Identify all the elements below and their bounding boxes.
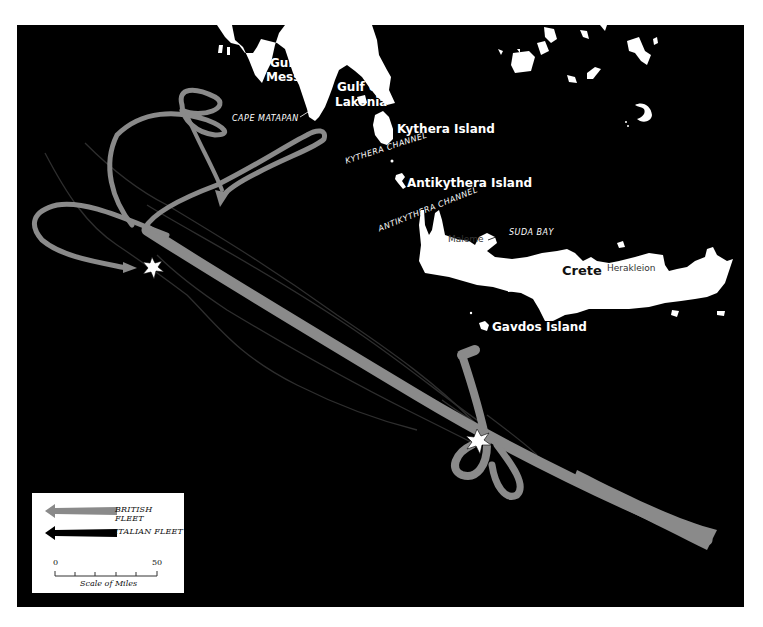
british-fleet-wide-tail	[572, 470, 717, 550]
land-kythera	[373, 111, 393, 145]
label-maleme: Maleme	[448, 234, 484, 244]
label-herakleion: Herakleion	[607, 263, 655, 273]
legend-label-british: BRITISH FLEET	[115, 505, 184, 523]
label-suda-bay: SUDA BAY	[509, 228, 554, 237]
legend-label-italian: ITALIAN FLEET	[115, 527, 183, 536]
label-gulf-messene-1: Gulf of	[270, 57, 315, 70]
british-fleet-arrow-icon	[45, 503, 125, 519]
italian-fleet-arrow-icon	[45, 525, 125, 541]
label-cape-matapan: CAPE MATAPAN	[232, 114, 299, 123]
suda-bay-leader	[487, 230, 511, 242]
label-gavdos-island: Gavdos Island	[492, 321, 587, 334]
cape-matapan-leader	[299, 105, 319, 119]
label-crete: Crete	[562, 264, 602, 277]
map-legend: BRITISH FLEET ITALIAN FLEET 0 50 Scale o…	[32, 493, 184, 593]
label-gulf-lakonia-2: Lakonia	[335, 96, 387, 109]
land-aegean-islands	[498, 25, 658, 127]
legend-item-italian: ITALIAN FLEET	[32, 525, 184, 541]
scale-end: 50	[152, 558, 162, 567]
label-gulf-messene-2: Messene	[266, 71, 325, 84]
explosion-icon	[143, 257, 491, 454]
scale-bar	[54, 569, 164, 579]
arrowhead-west	[123, 262, 137, 273]
scale-title: Scale of Miles	[80, 579, 137, 588]
arrowhead-north	[215, 190, 229, 207]
legend-item-british: BRITISH FLEET	[32, 503, 184, 519]
map-frame: Greece Gulf of Messene Gulf of Lakonia C…	[17, 25, 744, 607]
label-gulf-lakonia-1: Gulf of	[337, 81, 382, 94]
land-gavdos	[479, 321, 489, 331]
land-antikythera	[395, 173, 406, 189]
scale-start: 0	[53, 558, 58, 567]
label-greece: Greece	[301, 27, 360, 45]
